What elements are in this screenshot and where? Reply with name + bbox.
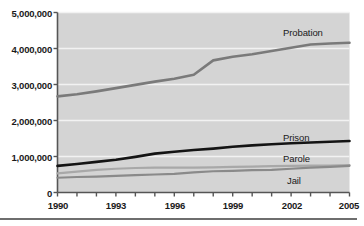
y-axis-tick-4000000: 4,000,000 xyxy=(0,44,52,55)
x-axis-tick-2005: 2005 xyxy=(329,200,364,211)
bottom-divider-rule xyxy=(0,218,357,220)
series-label-parole: Parole xyxy=(283,153,310,164)
series-label-prison: Prison xyxy=(283,132,309,143)
y-axis-tick-5000000: 5,000,000 xyxy=(0,8,52,19)
y-axis-tick-3000000: 3,000,000 xyxy=(0,80,52,91)
x-axis-tick-2002: 2002 xyxy=(272,200,312,211)
series-label-jail: Jail xyxy=(287,175,301,186)
x-axis-tick-1990: 1990 xyxy=(38,200,78,211)
y-axis-tick-2000000: 2,000,000 xyxy=(0,116,52,127)
x-axis-tick-1996: 1996 xyxy=(155,200,195,211)
series-label-probation: Probation xyxy=(283,27,323,38)
y-axis-tick-0: 0 xyxy=(0,188,52,199)
x-axis-tick-1993: 1993 xyxy=(96,200,136,211)
x-axis-tick-1999: 1999 xyxy=(213,200,253,211)
y-axis-tick-1000000: 1,000,000 xyxy=(0,152,52,163)
